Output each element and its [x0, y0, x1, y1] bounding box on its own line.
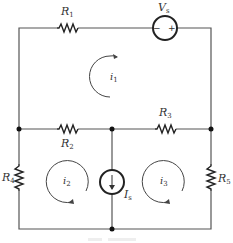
r3-label: R3: [158, 106, 172, 120]
caption-smudge: [88, 238, 136, 241]
circuit-diagram: R1 − + Vs i1 R2 R3 R4 R5 Is i2: [0, 0, 233, 243]
resistor-r2: [57, 125, 78, 133]
r1-label: R1: [60, 5, 74, 19]
r2-label: R2: [60, 137, 74, 151]
vs-plus-sign: +: [168, 23, 176, 33]
r5-label: R5: [217, 172, 231, 186]
i1-label: i1: [110, 71, 118, 84]
current-source-is: [100, 170, 124, 194]
voltage-source-vs: − +: [153, 16, 177, 40]
resistor-r3: [155, 125, 176, 133]
resistor-r1: [57, 24, 78, 32]
resistor-r5: [207, 164, 215, 191]
i2-label: i2: [63, 175, 71, 188]
resistor-r4: [15, 164, 23, 191]
is-label: Is: [123, 188, 132, 202]
i3-label: i3: [160, 175, 168, 188]
vs-minus-sign: −: [153, 23, 161, 33]
vs-label: Vs: [158, 1, 170, 15]
r4-label: R4: [1, 171, 15, 185]
